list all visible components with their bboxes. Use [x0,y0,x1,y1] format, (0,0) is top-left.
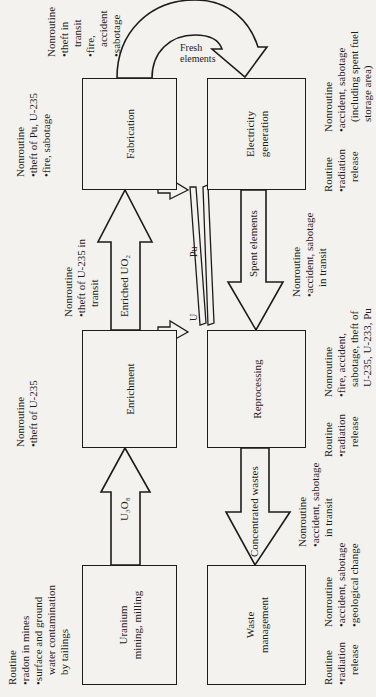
box-enrichment: Enrichment [82,330,177,448]
box-uranium-mining: Uraniummining, milling [82,565,177,685]
note-waste-routine: Routine •radiation release [322,642,361,685]
note-fresh-transit-nonroutine: Nonroutine •theft in transit •fire, acci… [45,7,123,57]
box-label: Uranium [117,605,129,644]
flow-label-u: U [188,314,199,321]
fresh-elements-arrow [117,0,267,78]
box-label: Reprocessing [250,359,264,418]
box-label: Enrichment [123,363,137,414]
flow-label-u3o8: U₃O₈ [118,497,130,521]
box-fabrication: Fabrication [82,78,177,190]
flow-label-fresh-elements: Fresh elements [180,42,216,64]
note-fabrication-nonroutine: Nonroutine •theft of Pu, U-235 •fire, sa… [14,93,53,177]
box-label: Fabrication [123,109,137,159]
box-label: management [258,597,270,653]
note-spent-transit-nonroutine: Nonroutine •accident, sabotage in transi… [290,213,329,297]
note-electricity-routine: Routine •radiation release [322,149,361,192]
box-electricity-generation: Electricitygeneration [207,78,306,190]
box-reprocessing: Reprocessing [207,330,306,448]
box-waste-management: Wastemanagement [207,565,306,685]
box-label: mining, milling [131,591,143,659]
box-label: Waste [244,612,256,639]
flow-label-spent-elements: Spent elements [247,210,259,277]
box-label: Electricity [244,111,256,157]
note-electricity-nonroutine: Nonroutine •accident, sabotage (includin… [322,31,374,132]
note-reprocessing-routine: Routine •radiation release [322,414,361,457]
note-enriched-transit-nonroutine: Nonroutine •theft of U-235 in transit [62,239,101,317]
note-waste-nonroutine: Nonroutine •accident, sabotage •geologic… [322,543,361,627]
note-reprocessing-nonroutine: Nonroutine •fire, accident, sabotage, th… [322,308,374,397]
flow-label-elements: elements [180,53,216,64]
flow-label-fresh: Fresh [180,42,202,53]
note-wastes-transit-nonroutine: Nonroutine •accident, sabotage in transi… [296,463,335,547]
flow-label-pu: Pu [188,246,199,257]
nuclear-fuel-cycle-diagram: Uraniummining, milling Enrichment Fabric… [0,0,376,697]
box-label: generation [258,111,270,157]
flow-label-concentrated-wastes: Concentrated wastes [248,466,260,557]
flow-label-enriched-uo2: Enriched UO₂ [118,255,130,317]
note-mining-routine: Routine •radon in mines •surface and gro… [6,585,71,685]
note-enrichment-nonroutine: Nonroutine •theft of U-235 [14,380,40,447]
